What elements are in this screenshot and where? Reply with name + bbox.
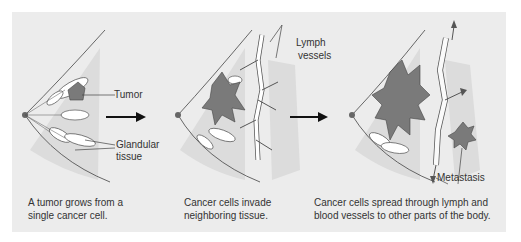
caption-line: blood vessels to other parts of the body…: [314, 209, 491, 222]
label-tissue: tissue: [116, 151, 142, 163]
caption-line: single cancer cell.: [28, 209, 123, 222]
caption-stage-3: Cancer cells spread through lymph and bl…: [314, 196, 491, 222]
caption-stage-1: A tumor grows from a single cancer cell.: [28, 196, 123, 222]
label-metastasis: Metastasis: [437, 172, 485, 184]
breast-stage-3: [349, 20, 480, 184]
breast-stage-2: [175, 25, 300, 182]
label-lymph: Lymph: [296, 37, 326, 49]
caption-line: Cancer cells spread through lymph and: [314, 196, 491, 209]
caption-line: Cancer cells invade: [184, 196, 271, 209]
breast-stage-1: [22, 30, 115, 182]
label-glandular: Glandular: [116, 139, 159, 151]
caption-line: A tumor grows from a: [28, 196, 123, 209]
arrow-right-icon: [106, 112, 146, 122]
label-vessels: vessels: [298, 50, 331, 62]
caption-line: neighboring tissue.: [184, 209, 271, 222]
label-tumor: Tumor: [114, 89, 143, 101]
caption-stage-2: Cancer cells invade neighboring tissue.: [184, 196, 271, 222]
